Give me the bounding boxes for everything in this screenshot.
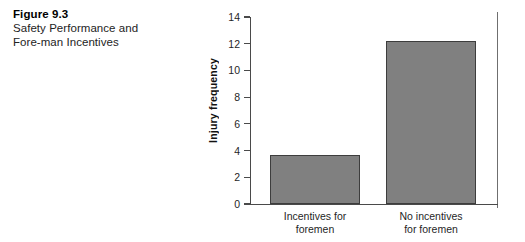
y-axis-tick: 0	[244, 203, 250, 204]
bar-chart: Injury frequency 02468101214 Incentives …	[205, 8, 499, 240]
y-axis-tick: 8	[244, 97, 250, 98]
y-axis-line	[250, 17, 251, 204]
y-axis-tick: 4	[244, 150, 250, 151]
x-axis-label: Incentives for foremen	[254, 210, 376, 236]
bar	[270, 155, 360, 204]
figure-caption: Figure 9.3 Safety Performance and Fore-m…	[13, 7, 163, 49]
bar	[386, 41, 476, 204]
y-axis-tick-label: 2	[234, 172, 240, 183]
y-axis-tick: 12	[244, 43, 250, 44]
y-axis-tick-label: 14	[228, 12, 240, 23]
y-axis-tick-label: 6	[234, 119, 240, 130]
figure-number: Figure 9.3	[13, 7, 163, 21]
y-axis-tick-label: 0	[234, 199, 240, 210]
y-axis-title: Injury frequency	[207, 58, 221, 143]
y-axis-tick-label: 8	[234, 92, 240, 103]
y-axis-tick: 10	[244, 70, 250, 71]
y-axis-tick-label: 10	[228, 65, 240, 76]
y-axis-tick-label: 4	[234, 145, 240, 156]
y-axis-tick-label: 12	[228, 38, 240, 49]
y-axis-tick: 2	[244, 177, 250, 178]
y-axis-tick: 14	[244, 16, 250, 17]
figure-title: Safety Performance and Fore-man Incentiv…	[13, 22, 145, 49]
x-axis-label: No incentives for foremen	[370, 210, 492, 236]
y-axis-tick: 6	[244, 123, 250, 124]
